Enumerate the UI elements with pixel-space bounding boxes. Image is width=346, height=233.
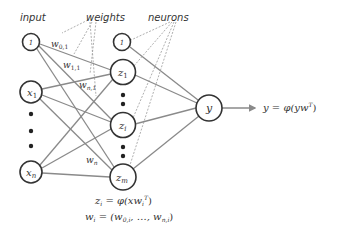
input-label: input (20, 12, 47, 23)
hidden-node-z1: z1 (111, 60, 136, 85)
input-node-x1: x1 (20, 81, 42, 103)
weight-label-wn1: wn,1 (79, 80, 96, 91)
hidden-output-edges (130, 47, 199, 169)
neurons-label: neurons (148, 12, 189, 23)
hidden-equation: zi = φ(xwiT) (94, 194, 152, 207)
hidden-ellipsis-bottom (121, 145, 125, 158)
output-node-y: y (196, 95, 222, 121)
weight-label-wn: wn (86, 155, 98, 166)
hidden-node-zm: zm (110, 164, 136, 190)
input-bias-node: 1 (23, 34, 40, 51)
svg-text:y: y (205, 102, 213, 115)
svg-text:1: 1 (29, 39, 33, 47)
weights-label: weights (86, 12, 125, 23)
weight-label-w11: w1,1 (63, 60, 80, 71)
hidden-bias-node: 1 (114, 34, 131, 51)
svg-text:1: 1 (120, 39, 124, 47)
weight-vector-equation: wi = (w0,i, …, wn,i) (85, 211, 173, 223)
weight-label-w01: w0,1 (51, 39, 68, 50)
hidden-ellipsis-top (121, 93, 125, 106)
output-equation: y = φ(ywT) (262, 101, 317, 113)
input-node-xn: xn (20, 161, 42, 183)
hidden-node-zi: zi (111, 113, 136, 138)
neural-network-diagram: input weights neurons 1 x1 xn 1 z1 zi (0, 0, 346, 233)
input-ellipsis (29, 112, 33, 148)
